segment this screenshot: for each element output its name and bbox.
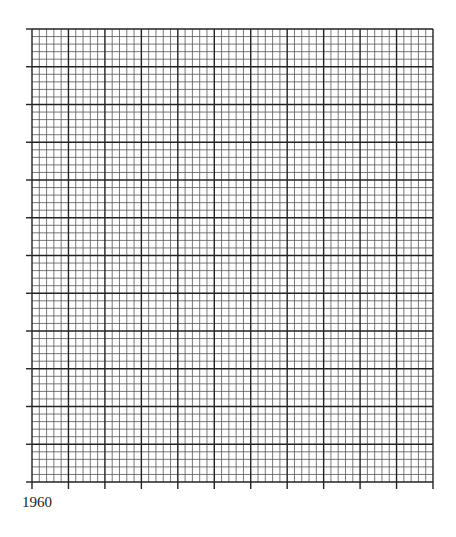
graph-paper-grid <box>0 0 456 537</box>
x-axis-start-label: 1960 <box>22 494 52 511</box>
axis-ticks <box>26 29 433 489</box>
